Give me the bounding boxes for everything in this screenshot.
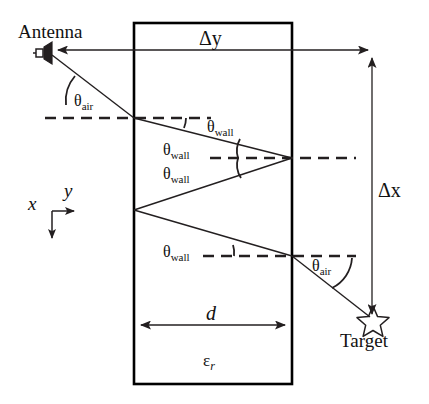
theta-air-top-base: θ	[74, 92, 82, 109]
wall-rectangle	[134, 23, 292, 384]
ray-path	[52, 55, 370, 317]
delta-y-label: Δy	[199, 28, 222, 48]
antenna-label: Antenna	[18, 22, 82, 41]
arc-theta-wall-4	[233, 245, 234, 256]
theta-wall-3-subscript: wall	[171, 173, 190, 185]
theta-wall-3-label: θwall	[163, 166, 190, 185]
theta-wall-4-label: θwall	[163, 244, 190, 263]
theta-wall-2-label: θwall	[163, 142, 190, 161]
theta-wall-2-subscript: wall	[171, 149, 190, 161]
arc-theta-air-bottom	[332, 258, 352, 288]
permittivity-label: εr	[203, 352, 215, 372]
theta-wall-2-base: θ	[163, 141, 171, 158]
arc-theta-wall-2	[237, 139, 240, 158]
theta-air-bottom-base: θ	[312, 257, 320, 274]
target-label: Target	[340, 331, 388, 350]
arc-theta-wall-1	[184, 118, 186, 128]
dashed-reference-lines	[45, 118, 356, 256]
theta-air-top-label: θair	[74, 93, 93, 112]
ray-propagation-diagram: Antenna Target Δy Δx d εr y x θair θwall…	[0, 0, 429, 404]
coordinate-axes	[52, 211, 74, 238]
ray-segment-wall-2	[134, 158, 292, 210]
theta-wall-3-base: θ	[163, 165, 171, 182]
delta-x-label: Δx	[378, 180, 401, 200]
axis-x-label: x	[28, 194, 36, 213]
axis-y-label: y	[64, 181, 72, 200]
theta-wall-1-base: θ	[207, 118, 215, 135]
ray-segment-wall-3	[134, 210, 292, 256]
theta-wall-1-label: θwall	[207, 119, 234, 138]
wall-thickness-label: d	[206, 303, 216, 323]
theta-air-bottom-subscript: air	[320, 265, 332, 277]
theta-air-top-subscript: air	[82, 100, 94, 112]
theta-wall-4-subscript: wall	[171, 251, 190, 263]
theta-wall-4-base: θ	[163, 243, 171, 260]
antenna-icon	[33, 42, 52, 64]
permittivity-subscript: r	[210, 359, 215, 373]
theta-air-bottom-label: θair	[312, 258, 331, 277]
theta-wall-1-subscript: wall	[215, 126, 234, 138]
